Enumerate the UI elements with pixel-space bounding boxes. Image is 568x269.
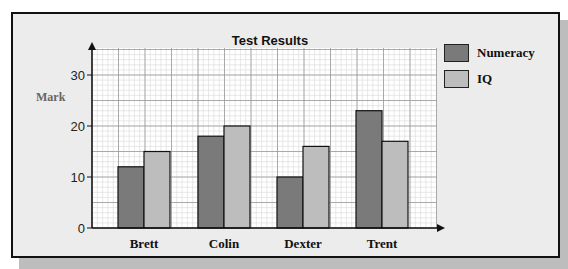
x-tick-label: Trent (367, 236, 398, 251)
plot-area: BrettColinDexterTrent0102030 (0, 0, 568, 269)
y-tick-label: 10 (71, 170, 85, 185)
legend-label: IQ (477, 71, 492, 87)
x-tick-label: Colin (209, 236, 240, 251)
bar-numeracy-trent (356, 111, 382, 228)
bar-numeracy-dexter (277, 177, 303, 228)
x-tick-label: Dexter (284, 236, 322, 251)
y-axis-arrow-icon (88, 42, 96, 50)
legend-item-numeracy: Numeracy (444, 44, 535, 62)
bar-iq-dexter (303, 146, 329, 228)
legend-label: Numeracy (477, 45, 535, 61)
x-axis-arrow-icon (437, 224, 445, 232)
bar-iq-colin (224, 126, 250, 228)
bar-numeracy-colin (198, 136, 224, 228)
x-tick-label: Brett (130, 236, 159, 251)
legend-item-iq: IQ (444, 70, 492, 88)
legend-swatch-numeracy (444, 44, 469, 62)
bar-iq-brett (144, 152, 170, 229)
bar-numeracy-brett (118, 167, 144, 228)
y-tick-label: 30 (71, 68, 85, 83)
y-tick-label: 20 (71, 119, 85, 134)
y-tick-label: 0 (78, 221, 85, 236)
bar-iq-trent (382, 141, 408, 228)
legend-swatch-iq (444, 70, 469, 88)
